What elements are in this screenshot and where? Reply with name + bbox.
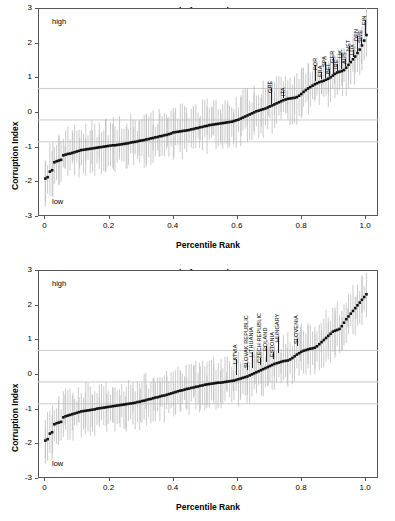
x-tick-mark bbox=[365, 478, 366, 481]
y-tick-label: 0 bbox=[16, 107, 32, 116]
y-tick-label: -1 bbox=[16, 142, 32, 151]
chart-panel-eu15: Control of Corruption EU-15 Corruption I… bbox=[0, 0, 395, 255]
x-tick-label: 1.0 bbox=[355, 221, 375, 230]
x-tick-label: 0 bbox=[34, 221, 54, 230]
y-tick-label: -2 bbox=[16, 438, 32, 447]
country-label: IRE bbox=[333, 60, 339, 70]
y-tick-label: 1 bbox=[16, 72, 32, 81]
country-label: FIN bbox=[361, 16, 367, 25]
x-axis-label-eu15: Percentile Rank bbox=[38, 240, 378, 250]
y-tick-mark bbox=[35, 305, 38, 306]
x-tick-label: 0.4 bbox=[163, 221, 183, 230]
x-tick-mark bbox=[109, 478, 110, 481]
y-tick-mark bbox=[35, 409, 38, 410]
x-tick-label: 0.6 bbox=[227, 221, 247, 230]
chart-canvas bbox=[38, 8, 378, 216]
x-axis-label-eu8: Percentile Rank bbox=[38, 502, 378, 512]
plot-area-eu8 bbox=[38, 270, 378, 478]
x-tick-mark bbox=[173, 478, 174, 481]
y-tick-label: -1 bbox=[16, 404, 32, 413]
x-tick-mark bbox=[44, 216, 45, 219]
x-tick-label: 0.2 bbox=[99, 221, 119, 230]
x-tick-mark bbox=[237, 216, 238, 219]
y-tick-mark bbox=[35, 478, 38, 479]
y-tick-mark bbox=[35, 77, 38, 78]
plot-area-eu15 bbox=[38, 8, 378, 216]
country-label: GRE bbox=[267, 81, 273, 93]
x-tick-mark bbox=[301, 216, 302, 219]
y-tick-label: 1 bbox=[16, 334, 32, 343]
x-tick-label: 1.0 bbox=[355, 483, 375, 492]
x-tick-label: 0.8 bbox=[291, 221, 311, 230]
y-tick-label: 2 bbox=[16, 38, 32, 47]
error-bars bbox=[45, 273, 366, 463]
y-tick-mark bbox=[35, 112, 38, 113]
country-label: POLAND bbox=[262, 328, 268, 352]
x-tick-mark bbox=[109, 216, 110, 219]
y-tick-mark bbox=[35, 147, 38, 148]
y-tick-mark bbox=[35, 339, 38, 340]
y-tick-mark bbox=[35, 43, 38, 44]
y-tick-label: -2 bbox=[16, 176, 32, 185]
x-tick-label: 0.6 bbox=[227, 483, 247, 492]
country-label: BEL bbox=[325, 63, 331, 74]
y-tick-label: 0 bbox=[16, 369, 32, 378]
y-tick-label: 3 bbox=[16, 3, 32, 12]
y-tick-label: 3 bbox=[16, 265, 32, 274]
figure-root: Control of Corruption EU-15 Corruption I… bbox=[0, 0, 395, 521]
y-tick-mark bbox=[35, 374, 38, 375]
x-tick-label: 0.4 bbox=[163, 483, 183, 492]
x-tick-label: 0.8 bbox=[291, 483, 311, 492]
country-label: LITHUANIA bbox=[248, 327, 254, 357]
country-label: SLOVENIA bbox=[293, 315, 299, 344]
error-bars bbox=[45, 8, 366, 207]
x-tick-label: 0.2 bbox=[99, 483, 119, 492]
y-tick-mark bbox=[35, 270, 38, 271]
x-tick-mark bbox=[44, 478, 45, 481]
country-label: ITA bbox=[280, 88, 286, 97]
x-tick-mark bbox=[365, 216, 366, 219]
country-label: LUX bbox=[349, 44, 355, 55]
y-tick-mark bbox=[35, 8, 38, 9]
x-tick-mark bbox=[237, 478, 238, 481]
x-tick-mark bbox=[301, 478, 302, 481]
y-tick-mark bbox=[35, 181, 38, 182]
country-label: LATVIA bbox=[232, 344, 238, 363]
country-label: FRA bbox=[317, 66, 323, 78]
chart-panel-eu8: Control of Corruption EU-8 Corruption In… bbox=[0, 262, 395, 517]
x-tick-label: 0 bbox=[34, 483, 54, 492]
country-label: AUS bbox=[341, 52, 347, 64]
chart-canvas bbox=[38, 270, 378, 478]
y-tick-mark bbox=[35, 443, 38, 444]
country-label: HUNGARY bbox=[274, 314, 280, 343]
y-tick-label: -3 bbox=[16, 211, 32, 220]
y-tick-mark bbox=[35, 216, 38, 217]
x-tick-mark bbox=[173, 216, 174, 219]
y-tick-label: 2 bbox=[16, 300, 32, 309]
y-tick-label: -3 bbox=[16, 473, 32, 482]
country-label: SWE bbox=[357, 30, 363, 43]
